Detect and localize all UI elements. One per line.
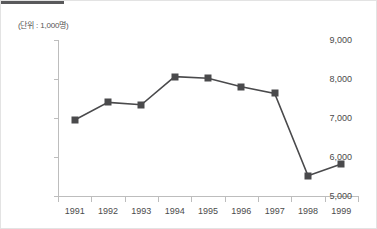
top-rule-decoration xyxy=(1,1,64,4)
data-point-marker xyxy=(205,75,212,82)
unit-label: (단위 : 1,000명) xyxy=(18,19,68,30)
x-tick-mark xyxy=(225,197,226,202)
data-point-marker xyxy=(338,161,345,168)
data-point-marker xyxy=(305,172,312,179)
x-tick-mark xyxy=(58,197,59,202)
x-tick-label: 1991 xyxy=(65,206,85,216)
data-point-marker xyxy=(138,101,145,108)
chart-figure: (단위 : 1,000명) 9,0008,0007,0006,0005,000 … xyxy=(0,0,377,229)
x-tick-mark xyxy=(91,197,92,202)
series-line xyxy=(58,40,358,197)
data-point-marker xyxy=(238,83,245,90)
x-tick-mark xyxy=(325,197,326,202)
x-tick-mark xyxy=(291,197,292,202)
x-tick-label: 1993 xyxy=(131,206,151,216)
x-tick-label: 1996 xyxy=(231,206,251,216)
x-tick-mark xyxy=(258,197,259,202)
x-tick-mark xyxy=(191,197,192,202)
data-point-marker xyxy=(271,90,278,97)
x-tick-label: 1998 xyxy=(298,206,318,216)
x-tick-label: 1994 xyxy=(165,206,185,216)
x-tick-mark xyxy=(358,197,359,202)
x-tick-label: 1992 xyxy=(98,206,118,216)
x-tick-label: 1997 xyxy=(265,206,285,216)
x-tick-label: 1999 xyxy=(331,206,351,216)
x-tick-mark xyxy=(125,197,126,202)
data-point-marker xyxy=(171,73,178,80)
plot-area: 9,0008,0007,0006,0005,000 19911992199319… xyxy=(58,40,358,196)
data-point-marker xyxy=(105,99,112,106)
x-tick-label: 1995 xyxy=(198,206,218,216)
x-tick-mark xyxy=(158,197,159,202)
data-point-marker xyxy=(71,116,78,123)
